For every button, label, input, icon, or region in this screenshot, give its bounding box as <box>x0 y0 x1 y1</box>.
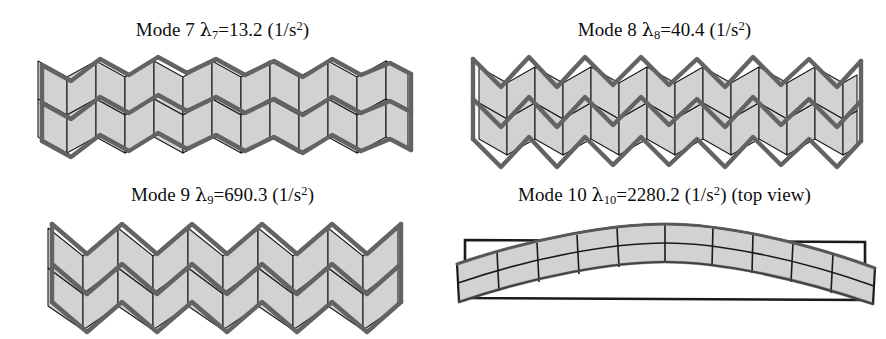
mode-title-mode8: Mode 8 λ8=40.4 (1/s2) <box>443 14 886 47</box>
mode10-svg <box>443 212 886 338</box>
mode-label: Mode 8 <box>578 19 637 40</box>
eigenvalue: 13.2 <box>229 19 263 40</box>
figure-root: Mode 7 λ7=13.2 (1/s2) <box>0 0 886 339</box>
units-open: (1/s <box>685 184 714 205</box>
mode-label: Mode 10 <box>518 184 587 205</box>
eigenvalue: 690.3 <box>224 184 267 205</box>
mode-panel-mode8: Mode 8 λ8=40.4 (1/s2) <box>443 14 886 175</box>
lambda-symbol: λ <box>200 18 212 40</box>
lambda-symbol: λ <box>592 183 604 205</box>
mode-panel-mode7: Mode 7 λ7=13.2 (1/s2) <box>2 14 443 175</box>
mode-drawing-mode8 <box>443 47 886 175</box>
units-open: (1/s <box>710 19 739 40</box>
mode8-svg <box>443 47 886 175</box>
units-open: (1/s <box>268 19 297 40</box>
lambda-symbol: λ <box>642 18 654 40</box>
eigenvalue: 2280.2 <box>627 184 680 205</box>
mode-panel-mode9: Mode 9 λ9=690.3 (1/s2) <box>2 179 443 338</box>
equals-sign: = <box>218 19 229 40</box>
units-close: ) <box>308 184 314 205</box>
lambda-symbol: λ <box>195 183 207 205</box>
units-close: ) <box>745 19 751 40</box>
mode-label: Mode 9 <box>131 184 190 205</box>
view-note: (top view) <box>727 184 811 205</box>
mode9-svg <box>2 212 443 338</box>
eigenvalue: 40.4 <box>671 19 705 40</box>
equals-sign: = <box>213 184 224 205</box>
mode-title-mode10: Mode 10 λ10=2280.2 (1/s2) (top view) <box>443 179 886 212</box>
units-open: (1/s <box>272 184 301 205</box>
mode-panel-mode10: Mode 10 λ10=2280.2 (1/s2) (top view) <box>443 179 886 338</box>
mode7-svg <box>2 47 443 175</box>
equals-sign: = <box>616 184 627 205</box>
units-close: ) <box>303 19 309 40</box>
mode-drawing-mode9 <box>2 212 443 338</box>
mode-drawing-mode7 <box>2 47 443 175</box>
equals-sign: = <box>660 19 671 40</box>
mode-title-mode7: Mode 7 λ7=13.2 (1/s2) <box>2 14 443 47</box>
lambda-subscript: 10 <box>604 193 617 207</box>
mode-drawing-mode10 <box>443 212 886 338</box>
mode-title-mode9: Mode 9 λ9=690.3 (1/s2) <box>2 179 443 212</box>
mode-label: Mode 7 <box>136 19 195 40</box>
deformed-curved-strip <box>457 224 875 304</box>
